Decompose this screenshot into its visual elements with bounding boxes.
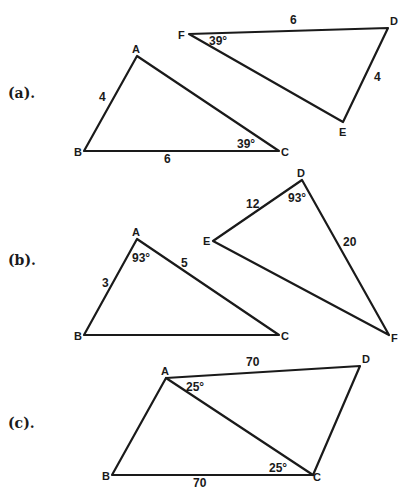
part-b: (b). A B C 3 5 93° D E F 12 20 93° [8,167,398,344]
part-a-label: (a). [8,85,35,101]
vertex-d: D [362,353,370,365]
angle-dac-measure: 25° [186,380,204,394]
angle-d-measure: 93° [288,191,306,205]
side-ab-length: 3 [102,276,109,290]
vertex-a: A [161,365,169,377]
angle-a-measure: 93° [132,251,150,265]
part-b-label: (b). [8,252,36,268]
parallelogram-abcd-c: A B C D 70 70 25° 25° [102,353,370,489]
part-c: (c). A B C D 70 70 25° 25° [8,353,370,489]
side-ab-length: 4 [99,90,106,104]
vertex-d: D [390,15,398,27]
angle-c-measure: 39° [237,137,255,151]
angle-bca-measure: 25° [269,461,287,475]
vertex-f: F [178,29,185,41]
vertex-d: D [297,167,305,179]
side-ac-length: 5 [181,256,188,270]
vertex-b: B [102,470,110,482]
side-ed-length: 12 [246,197,260,211]
side-ad-length: 70 [246,355,260,369]
triangle-fde-a: F D E 6 4 39° [178,13,398,138]
triangle-abc-outline [84,239,279,335]
vertex-b: B [74,146,82,158]
side-de-length: 4 [374,70,381,84]
similar-triangles-diagram: (a). A B C 4 6 39° F D E 6 4 39° (b). A … [0,0,406,489]
vertex-a: A [132,226,140,238]
vertex-e: E [339,126,346,138]
vertex-c: C [313,471,321,483]
side-bc-length: 6 [164,152,171,166]
vertex-c: C [281,330,289,342]
triangle-abc-a: A B C 4 6 39° [74,43,289,166]
side-df-length: 20 [343,235,357,249]
vertex-f: F [391,332,398,344]
quadrilateral-outline [112,366,360,475]
triangle-def-b: D E F 12 20 93° [203,167,398,344]
side-fd-length: 6 [290,13,297,27]
vertex-a: A [132,43,140,55]
vertex-b: B [74,330,82,342]
vertex-e: E [203,235,210,247]
side-bc-length: 70 [193,476,207,489]
vertex-c: C [281,146,289,158]
triangle-abc-b: A B C 3 5 93° [74,226,289,342]
part-a: (a). A B C 4 6 39° F D E 6 4 39° [8,13,398,166]
part-c-label: (c). [8,415,35,431]
angle-f-measure: 39° [209,34,227,48]
